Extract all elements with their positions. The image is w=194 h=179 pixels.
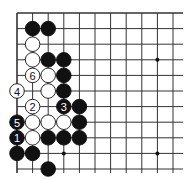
black-stone[interactable] (25, 21, 40, 36)
black-stone[interactable] (41, 162, 56, 177)
black-stone[interactable] (57, 84, 72, 99)
black-stone[interactable] (72, 131, 87, 146)
white-stone[interactable] (57, 115, 72, 130)
white-stone[interactable] (25, 37, 40, 52)
star-point (155, 58, 159, 62)
black-stone[interactable] (57, 68, 72, 83)
move-number: 4 (14, 86, 20, 98)
white-stone[interactable] (25, 115, 40, 130)
move-number: 2 (30, 101, 36, 113)
white-stone[interactable] (41, 68, 56, 83)
white-stone[interactable] (25, 53, 40, 68)
black-stone[interactable] (72, 115, 87, 130)
move-number: 3 (61, 101, 67, 113)
black-stone[interactable] (41, 53, 56, 68)
black-stone[interactable] (41, 131, 56, 146)
black-stone[interactable] (25, 146, 40, 161)
black-stone[interactable] (10, 146, 25, 161)
black-stone[interactable] (57, 131, 72, 146)
move-number: 6 (30, 70, 36, 82)
move-number: 1 (14, 132, 20, 144)
star-point (62, 151, 66, 155)
go-board[interactable]: 642351 (0, 0, 194, 179)
white-stone[interactable] (41, 84, 56, 99)
white-stone[interactable] (41, 115, 56, 130)
move-number: 5 (14, 117, 20, 129)
black-stone[interactable] (72, 99, 87, 114)
black-stone[interactable] (41, 21, 56, 36)
black-stone[interactable] (57, 53, 72, 68)
star-point (155, 151, 159, 155)
white-stone[interactable] (25, 131, 40, 146)
